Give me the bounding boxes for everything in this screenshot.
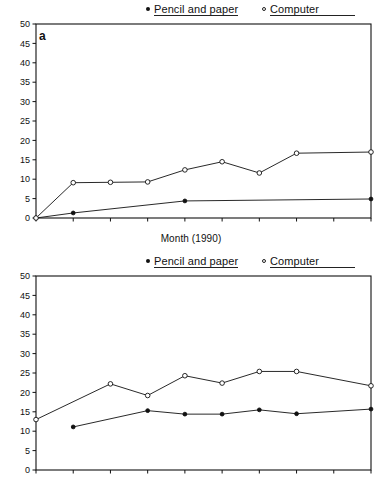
legend-panel-a: Pencil and paper Computer [0, 2, 382, 20]
data-point-open-circle-icon [145, 393, 150, 398]
x-tick-label: DEC [362, 475, 381, 477]
legend-label-computer: Computer [270, 3, 355, 16]
y-tick-label: 25 [20, 368, 30, 378]
data-point-open-circle-icon [34, 417, 39, 422]
x-tick-label: MAR [26, 223, 46, 225]
y-tick-label: 10 [20, 174, 30, 184]
data-point-filled-circle-icon [369, 407, 373, 411]
filled-circle-icon [146, 7, 150, 11]
chart-panel-b: Pencil and paper Computer 05101520253035… [0, 252, 382, 500]
y-tick-label: 45 [20, 291, 30, 301]
legend-panel-b: Pencil and paper Computer [0, 254, 382, 272]
legend-item-computer: Computer [262, 254, 355, 268]
legend-label-pencil-and-paper: Pencil and paper [154, 3, 238, 16]
data-point-open-circle-icon [34, 216, 39, 221]
data-point-open-circle-icon [257, 369, 262, 374]
series-line-pencil-and-paper [73, 409, 371, 427]
data-point-open-circle-icon [220, 159, 225, 164]
x-axis-title-a: Month (1990) [0, 233, 382, 244]
x-tick-label: MAY [101, 475, 120, 477]
data-point-filled-circle-icon [257, 408, 261, 412]
x-tick-label: AUG [213, 475, 232, 477]
y-tick-label: 40 [20, 310, 30, 320]
y-tick-label: 0 [25, 465, 30, 475]
x-tick-label: JUN [139, 475, 156, 477]
y-tick-label: 25 [20, 116, 30, 126]
data-point-open-circle-icon [369, 150, 374, 155]
x-tick-label: NOV [324, 475, 343, 477]
y-tick-label: 30 [20, 349, 30, 359]
data-point-filled-circle-icon [183, 412, 187, 416]
x-tick-label: JUL [177, 223, 193, 225]
data-point-open-circle-icon [294, 369, 299, 374]
data-point-filled-circle-icon [369, 197, 373, 201]
open-circle-icon [262, 7, 266, 11]
x-tick-label: AUG [213, 223, 232, 225]
y-tick-label: 40 [20, 58, 30, 68]
y-tick-label: 5 [25, 446, 30, 456]
y-tick-label: 0 [25, 213, 30, 223]
data-point-open-circle-icon [108, 180, 113, 185]
x-tick-label: NOV [324, 223, 343, 225]
x-tick-label: OCT [287, 475, 306, 477]
x-tick-label: OCT [287, 223, 306, 225]
y-tick-label: 30 [20, 97, 30, 107]
x-tick-label: SEP [251, 223, 269, 225]
legend-item-pencil-and-paper: Pencil and paper [146, 2, 238, 16]
y-tick-label: 15 [20, 155, 30, 165]
y-tick-label: 50 [20, 20, 30, 29]
data-point-open-circle-icon [257, 171, 262, 176]
data-point-open-circle-icon [108, 382, 113, 387]
data-point-filled-circle-icon [71, 211, 75, 215]
x-tick-label: DEC [362, 223, 381, 225]
chart-svg-a: 05101520253035404550MARAPRMAYJUNJULAUGSE… [0, 20, 382, 225]
data-point-filled-circle-icon [71, 425, 75, 429]
data-point-open-circle-icon [369, 384, 374, 389]
data-point-open-circle-icon [294, 151, 299, 156]
series-line-computer [36, 152, 371, 218]
y-tick-label: 35 [20, 77, 30, 87]
data-point-open-circle-icon [183, 168, 188, 173]
data-point-open-circle-icon [220, 381, 225, 386]
x-tick-label: MAY [101, 223, 120, 225]
plot-area-a: 05101520253035404550MARAPRMAYJUNJULAUGSE… [0, 20, 382, 220]
data-point-filled-circle-icon [146, 409, 150, 413]
y-tick-label: 35 [20, 329, 30, 339]
data-point-open-circle-icon [145, 180, 150, 185]
y-tick-label: 20 [20, 388, 30, 398]
open-circle-icon [262, 259, 266, 263]
legend-item-pencil-and-paper: Pencil and paper [146, 254, 238, 268]
panel-tag-a: a [39, 29, 46, 43]
data-point-open-circle-icon [71, 180, 76, 185]
legend-item-computer: Computer [262, 2, 355, 16]
y-tick-label: 5 [25, 194, 30, 204]
legend-label-pencil-and-paper: Pencil and paper [154, 255, 238, 268]
series-line-pencil-and-paper [36, 199, 371, 218]
x-tick-label: MAR [26, 475, 46, 477]
y-tick-label: 50 [20, 272, 30, 281]
x-tick-label: JUN [139, 223, 156, 225]
filled-circle-icon [146, 259, 150, 263]
chart-panel-a: Pencil and paper Computer 05101520253035… [0, 0, 382, 250]
x-tick-label: JUL [177, 475, 193, 477]
x-tick-label: APR [64, 475, 82, 477]
y-tick-label: 10 [20, 426, 30, 436]
data-point-filled-circle-icon [183, 199, 187, 203]
x-tick-label: APR [64, 223, 82, 225]
y-tick-label: 15 [20, 407, 30, 417]
data-point-open-circle-icon [183, 373, 188, 378]
plot-area-b: 05101520253035404550MARAPRMAYJUNJULAUGSE… [0, 272, 382, 472]
y-tick-label: 20 [20, 136, 30, 146]
figure-root: Pencil and paper Computer 05101520253035… [0, 0, 382, 500]
y-tick-label: 45 [20, 39, 30, 49]
data-point-filled-circle-icon [220, 412, 224, 416]
x-tick-label: SEP [251, 475, 269, 477]
chart-svg-b: 05101520253035404550MARAPRMAYJUNJULAUGSE… [0, 272, 382, 477]
data-point-filled-circle-icon [295, 412, 299, 416]
legend-label-computer: Computer [270, 255, 355, 268]
